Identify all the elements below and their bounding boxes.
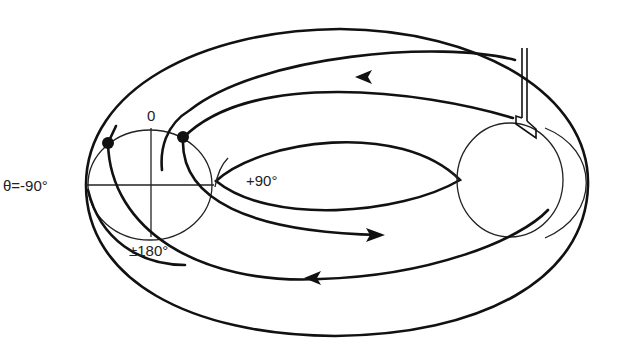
arrow-upper xyxy=(355,70,372,84)
label-theta-zero: 0 xyxy=(147,108,155,123)
marker-dot-inner xyxy=(177,131,189,143)
label-theta-plus-90: +90° xyxy=(246,173,277,188)
probe-foot xyxy=(516,116,536,138)
torus-diagram: θ=-90° 0 +90° ±180° xyxy=(0,0,622,364)
label-theta-minus-90: θ=-90° xyxy=(3,178,48,193)
right-cross-section-circle xyxy=(457,123,563,237)
field-line-upper-outer xyxy=(162,52,515,170)
marker-dot-outer xyxy=(102,137,114,149)
torus-outer-boundary xyxy=(86,29,588,336)
label-theta-180: ±180° xyxy=(129,243,168,258)
field-line-upper-inner xyxy=(183,92,513,138)
torus-drawing xyxy=(0,0,622,364)
